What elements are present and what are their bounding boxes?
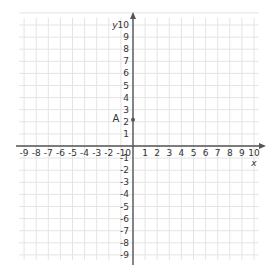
x-tick-label: 2 [154, 148, 160, 158]
y-tick-label: -1 [120, 153, 129, 163]
x-tick-label: -3 [92, 148, 101, 158]
y-tick-label: -3 [120, 177, 129, 187]
point-marker [131, 118, 135, 122]
y-tick-label: 1 [123, 129, 129, 139]
y-tick-label: -9 [120, 250, 129, 260]
x-tick-label: 8 [227, 148, 233, 158]
point-label: A [113, 113, 120, 124]
x-tick-label: -6 [56, 148, 65, 158]
y-axis-label: y [111, 20, 118, 30]
x-axis-arrow-icon [259, 143, 266, 149]
y-tick-label: 2 [123, 117, 129, 127]
y-tick-label: 7 [123, 56, 129, 66]
x-tick-label: -2 [104, 148, 113, 158]
x-tick-label: 5 [191, 148, 197, 158]
y-tick-label: 4 [123, 93, 129, 103]
y-tick-label: -6 [120, 214, 129, 224]
x-tick-label: 10 [248, 148, 260, 158]
y-tick-label: 5 [123, 81, 129, 91]
x-tick-label: -8 [32, 148, 41, 158]
axes [16, 12, 266, 265]
y-tick-label: -7 [120, 226, 129, 236]
y-tick-label: 10 [118, 20, 130, 30]
grid-lines [19, 13, 259, 260]
x-tick-label: 3 [166, 148, 172, 158]
x-tick-label: 9 [239, 148, 245, 158]
y-tick-label: -5 [120, 202, 129, 212]
y-tick-label: 6 [123, 68, 129, 78]
y-tick-label: -2 [120, 165, 129, 175]
x-tick-label: -5 [68, 148, 77, 158]
tick-labels: -9-8-7-6-5-4-3-2-10123456789101098765432… [20, 20, 260, 260]
x-tick-label: 4 [179, 148, 185, 158]
y-tick-label: -4 [120, 189, 129, 199]
y-tick-label: 9 [123, 32, 129, 42]
y-tick-label: 3 [123, 105, 129, 115]
x-tick-label: -7 [44, 148, 53, 158]
x-tick-label: 6 [203, 148, 209, 158]
coordinate-plane: -9-8-7-6-5-4-3-2-10123456789101098765432… [0, 0, 272, 280]
x-tick-label: 1 [142, 148, 148, 158]
x-tick-label: -4 [80, 148, 89, 158]
x-axis-label: x [250, 158, 257, 168]
y-tick-label: 8 [123, 44, 129, 54]
x-tick-label: 7 [215, 148, 221, 158]
y-tick-label: -8 [120, 238, 129, 248]
x-tick-label: -9 [20, 148, 29, 158]
